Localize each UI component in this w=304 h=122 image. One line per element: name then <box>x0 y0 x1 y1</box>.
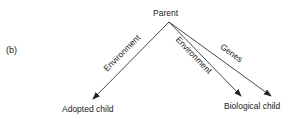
node-biological-child: Biological child <box>224 101 280 111</box>
arrow-env-adopted <box>93 22 169 99</box>
arrow-genes-biological <box>169 22 271 96</box>
panel-label: (b) <box>6 45 17 55</box>
node-adopted-child: Adopted child <box>62 104 114 114</box>
node-parent: Parent <box>153 8 178 18</box>
